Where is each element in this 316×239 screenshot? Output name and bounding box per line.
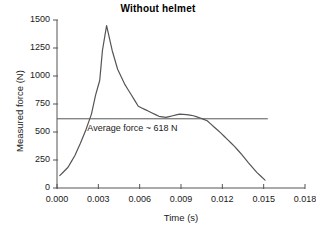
x-tick-label: 0.018 xyxy=(285,194,316,204)
y-tick-label: 1250 xyxy=(8,42,50,52)
chart-container: Without helmet 0250500750100012501500 0.… xyxy=(0,0,316,239)
y-axis-title: Measured force (N) xyxy=(14,70,25,152)
x-tick-label: 0.003 xyxy=(78,194,118,204)
y-tick-label: 250 xyxy=(8,154,50,164)
y-tick-label: 0 xyxy=(8,182,50,192)
x-tick-label: 0.006 xyxy=(120,194,160,204)
average-force-annotation: Average force ~ 618 N xyxy=(87,123,177,133)
x-tick-label: 0.009 xyxy=(161,194,201,204)
y-tick-label: 1500 xyxy=(8,14,50,24)
x-tick-label: 0.015 xyxy=(244,194,284,204)
data-series xyxy=(60,26,265,181)
x-tick-label: 0.000 xyxy=(37,194,77,204)
x-axis-title: Time (s) xyxy=(23,212,316,223)
x-tick-label: 0.012 xyxy=(202,194,242,204)
force-curve xyxy=(60,26,265,181)
